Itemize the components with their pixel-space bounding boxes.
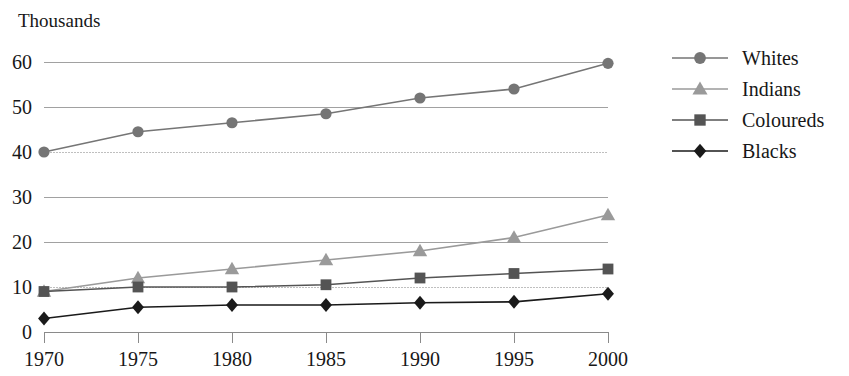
data-point-diamond	[414, 296, 426, 310]
series-group	[37, 58, 615, 326]
legend-label: Whites	[742, 47, 799, 69]
x-axis	[44, 332, 609, 343]
line-chart: 0102030405060197019751980198519901995200…	[0, 0, 849, 376]
data-point-circle	[602, 58, 613, 69]
data-point-square	[133, 282, 144, 293]
data-point-triangle	[601, 208, 615, 220]
data-point-square	[694, 114, 705, 125]
data-point-diamond	[38, 312, 50, 326]
legend-item-whites[interactable]: Whites	[672, 47, 799, 69]
data-point-circle	[38, 146, 49, 157]
data-point-square	[509, 268, 520, 279]
legend-item-coloureds[interactable]: Coloureds	[672, 109, 824, 131]
data-point-square	[415, 273, 426, 284]
data-point-circle	[694, 52, 706, 64]
data-point-circle	[414, 92, 425, 103]
data-point-diamond	[226, 298, 238, 312]
series-blacks	[38, 287, 614, 326]
data-point-circle	[132, 126, 143, 137]
legend-item-indians[interactable]: Indians	[672, 78, 801, 100]
x-tick-labels: 1970197519801985199019952000	[24, 348, 628, 370]
data-point-square	[603, 264, 614, 275]
data-point-circle	[320, 108, 331, 119]
legend-label: Blacks	[742, 140, 797, 162]
data-point-circle	[508, 83, 519, 94]
y-tick-label: 50	[12, 96, 32, 118]
data-point-square	[39, 286, 50, 297]
data-point-square	[321, 279, 332, 290]
data-point-circle	[226, 117, 237, 128]
y-tick-label: 60	[12, 51, 32, 73]
y-tick-label: 20	[12, 231, 32, 253]
y-tick-label: 30	[12, 186, 32, 208]
chart-title: Thousands	[18, 10, 100, 31]
y-tick-label: 0	[22, 321, 32, 343]
x-tick-label: 2000	[588, 348, 628, 370]
legend: WhitesIndiansColouredsBlacks	[672, 47, 824, 162]
legend-label: Indians	[742, 78, 801, 100]
data-point-triangle	[692, 81, 707, 94]
data-point-diamond	[694, 144, 706, 159]
data-point-square	[227, 282, 238, 293]
data-point-diamond	[320, 298, 332, 312]
x-tick-label: 1985	[306, 348, 346, 370]
x-tick-label: 1970	[24, 348, 64, 370]
x-tick-label: 1975	[118, 348, 158, 370]
y-tick-label: 40	[12, 141, 32, 163]
data-point-diamond	[602, 287, 614, 301]
chart-canvas: 0102030405060197019751980198519901995200…	[0, 0, 849, 376]
x-tick-label: 1995	[494, 348, 534, 370]
y-tick-labels: 0102030405060	[12, 51, 32, 343]
legend-label: Coloureds	[742, 109, 824, 131]
legend-item-blacks[interactable]: Blacks	[672, 140, 797, 162]
x-tick-label: 1990	[400, 348, 440, 370]
x-tick-label: 1980	[212, 348, 252, 370]
data-point-diamond	[132, 300, 144, 314]
y-tick-label: 10	[12, 276, 32, 298]
data-point-diamond	[508, 295, 520, 309]
